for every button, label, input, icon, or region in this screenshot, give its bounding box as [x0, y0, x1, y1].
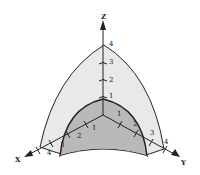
- y-tick-1: 1: [117, 110, 121, 118]
- x-tick-3: 3: [60, 141, 64, 149]
- x-axis-arrow: [24, 150, 33, 157]
- y-tick-4: 4: [164, 138, 169, 146]
- z-axis-arrow: [100, 20, 106, 30]
- x-tick-2: 2: [77, 132, 81, 140]
- z-tick-3: 3: [109, 58, 113, 66]
- octant-diagram: Z X Y 1 2 3 4 1 2 3 4 1 2 3 4: [0, 0, 200, 175]
- x-tick-4: 4: [47, 149, 52, 157]
- x-tick-1: 1: [92, 124, 96, 132]
- y-tick-2: 2: [133, 120, 137, 128]
- z-tick-4: 4: [109, 40, 114, 48]
- z-axis-label: Z: [101, 12, 106, 21]
- z-tick-2: 2: [109, 76, 113, 84]
- y-tick-3: 3: [150, 129, 154, 137]
- y-axis-arrow: [171, 149, 180, 157]
- x-axis-label: X: [15, 155, 21, 164]
- y-axis-label: Y: [180, 158, 187, 167]
- z-tick-1: 1: [109, 92, 113, 100]
